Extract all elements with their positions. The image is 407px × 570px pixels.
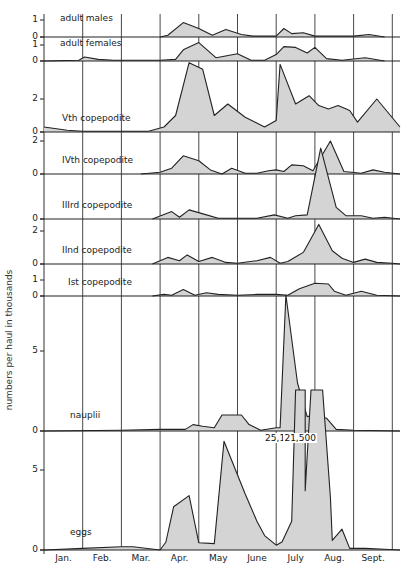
y-tick-label: 2	[26, 135, 38, 145]
x-month-label: June	[238, 553, 276, 563]
series-area-ivth-copepodite	[141, 141, 400, 174]
y-tick-label: 0	[26, 544, 38, 554]
y-axis-label: numbers per haul in thousands	[4, 270, 14, 411]
series-area-adult-males	[160, 23, 385, 37]
panel-label: Ist copepodite	[68, 277, 132, 287]
y-tick-label: 0	[26, 425, 38, 435]
panel-label: IVth copepodite	[62, 155, 133, 165]
y-tick-label: 1	[26, 274, 38, 284]
x-month-label: Aug.	[315, 553, 353, 563]
x-month-label: Feb.	[83, 553, 121, 563]
y-tick-label: 5	[26, 345, 38, 355]
y-tick-label: 0	[26, 258, 38, 268]
panel-label: adult males	[60, 13, 113, 23]
panel-label: nauplii	[70, 410, 100, 420]
x-month-label: Apr.	[161, 553, 199, 563]
y-tick-label: 1	[26, 39, 38, 49]
y-tick-label: 0	[26, 213, 38, 223]
chart-canvas	[0, 0, 407, 570]
panel-label: Vth copepodite	[62, 113, 130, 123]
y-tick-label: 0	[26, 290, 38, 300]
x-month-label: Mar.	[122, 553, 160, 563]
x-month-label: July	[277, 553, 315, 563]
panel-label: IIIrd copepodite	[62, 200, 132, 210]
y-tick-label: 2	[26, 93, 38, 103]
y-tick-label: 0	[26, 168, 38, 178]
panel-label: eggs	[70, 527, 92, 537]
y-tick-label: 0	[26, 55, 38, 65]
panel-label: adult females	[60, 38, 122, 48]
y-tick-label: 1	[26, 14, 38, 24]
peak-annotation: 21,500	[283, 433, 317, 443]
x-month-label: May	[199, 553, 237, 563]
x-month-label: Sept.	[354, 553, 392, 563]
y-tick-label: 2	[26, 225, 38, 235]
y-tick-label: 5	[26, 464, 38, 474]
panel-label: IInd copepodite	[62, 245, 132, 255]
x-month-label: Jan.	[45, 553, 83, 563]
